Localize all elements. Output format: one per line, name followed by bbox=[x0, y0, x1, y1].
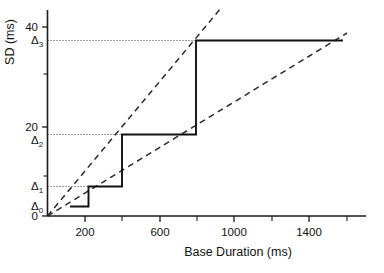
reference-line-group bbox=[48, 8, 348, 216]
chart-plot-area: 40 20 0 Δ3 Δ2 Δ1 Δ0 200 600 1000 1400 Ba… bbox=[0, 0, 384, 273]
delta-2-label: Δ2 bbox=[31, 134, 44, 149]
y-axis-title: SD (ms) bbox=[3, 19, 17, 65]
y-tick-label-40: 40 bbox=[25, 21, 38, 33]
x-tick-label-1400: 1400 bbox=[296, 226, 322, 238]
y-tick-label-20: 20 bbox=[25, 121, 38, 133]
x-tick-label-200: 200 bbox=[75, 226, 94, 238]
upper-weber-bound-line bbox=[48, 8, 222, 216]
x-tick-label-1000: 1000 bbox=[221, 226, 247, 238]
lower-weber-bound-line bbox=[48, 33, 348, 216]
delta-3-label: Δ3 bbox=[31, 34, 44, 49]
x-axis-ticks bbox=[85, 216, 347, 222]
x-tick-label-600: 600 bbox=[150, 226, 169, 238]
delta-1-label: Δ1 bbox=[31, 180, 44, 195]
staircase-series-line bbox=[70, 41, 343, 207]
x-axis-title: Base Duration (ms) bbox=[184, 245, 292, 259]
chart-figure: 40 20 0 Δ3 Δ2 Δ1 Δ0 200 600 1000 1400 Ba… bbox=[0, 0, 384, 273]
